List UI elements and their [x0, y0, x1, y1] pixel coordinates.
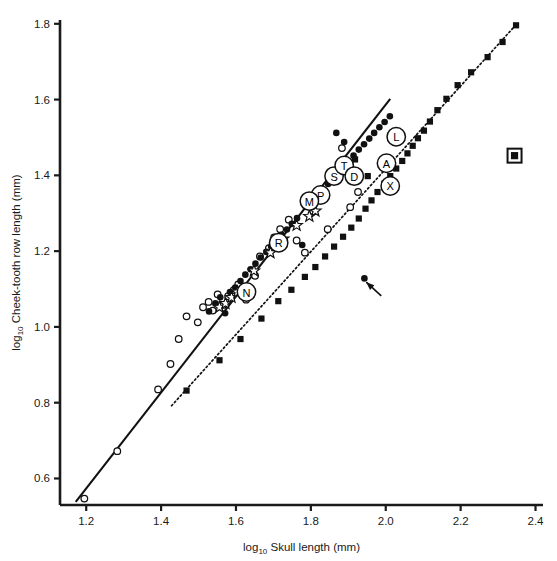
y-tick-label: 1.8	[34, 18, 50, 30]
x-tick-label: 1.6	[228, 515, 244, 527]
data-point-filled-circle	[341, 139, 348, 146]
plot-area: LAXSTDPMRN	[76, 22, 522, 502]
data-point-filled-square	[499, 39, 505, 45]
data-point-filled-square	[421, 128, 427, 134]
data-point-open-circle	[339, 145, 346, 152]
data-point-filled-square	[356, 215, 362, 221]
data-point-filled-circle	[257, 254, 264, 261]
data-point-filled-square	[275, 298, 281, 304]
data-point-filled-square	[340, 234, 346, 240]
data-point-filled-square	[258, 315, 264, 321]
data-point-filled-circle	[217, 294, 224, 301]
data-point-open-circle	[293, 237, 300, 244]
data-point-filled-square	[484, 54, 490, 60]
data-point-open-circle	[200, 304, 207, 311]
labeled-point-A: A	[377, 154, 395, 172]
data-point-open-circle	[167, 361, 174, 368]
data-point-open-circle	[155, 386, 162, 393]
data-point-filled-square	[288, 287, 294, 293]
scatter-plot-figure: LAXSTDPMRN1.21.41.61.82.02.22.40.60.81.0…	[0, 0, 557, 561]
label-letter-N: N	[242, 287, 250, 299]
data-point-filled-square	[513, 22, 519, 28]
x-tick-label: 1.8	[303, 515, 319, 527]
data-point-filled-square	[399, 158, 405, 164]
data-point-filled-square	[183, 387, 189, 393]
data-point-filled-square	[455, 82, 461, 88]
data-point-filled-square	[427, 118, 433, 124]
data-point-open-circle	[114, 448, 121, 455]
data-point-filled-square	[331, 243, 337, 249]
x-tick-label: 2.2	[453, 515, 469, 527]
y-tick-label: 1.4	[34, 169, 51, 181]
data-point-filled-square	[374, 189, 380, 195]
label-letter-D: D	[350, 171, 358, 183]
data-point-filled-circle	[371, 130, 378, 137]
data-point-open-circle	[81, 495, 88, 502]
data-point-filled-square	[362, 206, 368, 212]
x-tick-label: 2.0	[378, 515, 394, 527]
labeled-point-N: N	[237, 283, 255, 301]
data-point-filled-square	[302, 274, 308, 280]
data-point-filled-square	[415, 135, 421, 141]
label-letter-A: A	[383, 158, 391, 170]
data-point-open-circle	[347, 204, 354, 211]
data-point-filled-square	[365, 173, 371, 179]
data-point-filled-square	[348, 225, 354, 231]
data-point-filled-square	[216, 357, 222, 363]
data-point-filled-square	[322, 253, 328, 259]
label-letter-X: X	[387, 180, 395, 192]
data-point-filled-circle	[333, 130, 340, 137]
x-tick-label: 1.4	[153, 515, 170, 527]
x-axis-title: log10 Skull length (mm)	[243, 541, 360, 556]
y-tick-label: 1.2	[34, 245, 50, 257]
data-point-open-circle	[277, 226, 284, 233]
data-point-filled-circle	[387, 113, 394, 120]
data-point-filled-circle	[299, 242, 306, 249]
labeled-points-group: LAXSTDPMRN	[237, 128, 405, 302]
data-point-filled-square	[404, 150, 410, 156]
data-point-open-circle	[302, 249, 309, 256]
label-letter-L: L	[393, 131, 399, 143]
data-point-open-circle	[194, 319, 201, 326]
data-point-filled-circle	[355, 146, 362, 153]
data-point-filled-circle	[242, 271, 249, 278]
labeled-point-D: D	[345, 167, 363, 185]
plot-canvas: LAXSTDPMRN1.21.41.61.82.02.22.40.60.81.0…	[0, 0, 557, 561]
data-point-filled-square	[443, 96, 449, 102]
y-tick-label: 0.8	[34, 397, 50, 409]
outlier-arrow	[366, 282, 381, 296]
series-isolated-boxed-square	[508, 149, 522, 163]
y-axis-title: log10 Cheek-tooth row length (mm)	[10, 174, 25, 351]
data-point-filled-square	[368, 197, 374, 203]
labeled-point-M: M	[300, 192, 318, 210]
labeled-point-X: X	[381, 177, 399, 195]
label-letter-R: R	[275, 237, 283, 249]
data-point-filled-circle	[376, 124, 383, 131]
data-point-open-circle	[183, 313, 190, 320]
data-point-filled-circle	[381, 119, 388, 126]
labeled-point-L: L	[387, 128, 405, 146]
labeled-point-R: R	[269, 234, 287, 252]
dotted-regression-line	[172, 23, 518, 406]
data-point-open-circle	[324, 226, 331, 233]
data-point-open-circle	[205, 299, 212, 306]
label-letter-S: S	[330, 171, 337, 183]
data-point-filled-circle	[366, 135, 373, 142]
y-tick-label: 1.6	[34, 94, 50, 106]
axes-frame: 1.21.41.61.82.02.22.40.60.81.01.21.41.61…	[10, 18, 544, 556]
data-point-filled-square	[237, 336, 243, 342]
data-point-filled-circle	[206, 308, 213, 315]
x-tick-label: 1.2	[78, 515, 94, 527]
y-tick-label: 1.0	[34, 321, 50, 333]
data-point-filled-circle	[361, 275, 368, 282]
label-letter-M: M	[305, 196, 314, 208]
data-point-filled-circle	[361, 141, 368, 148]
data-point-filled-square	[434, 107, 440, 113]
data-point-open-circle	[175, 336, 182, 343]
data-point-filled-square	[312, 264, 318, 270]
data-point-open-circle	[355, 189, 362, 196]
x-tick-label: 2.4	[528, 515, 545, 527]
y-tick-label: 0.6	[34, 472, 50, 484]
legend-marker-inner-square	[511, 152, 518, 159]
data-point-filled-square	[410, 143, 416, 149]
